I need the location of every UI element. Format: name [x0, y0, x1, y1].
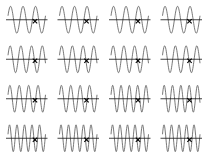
waveform-grid — [0, 0, 206, 158]
waveform-panel — [6, 46, 48, 73]
waveform-panels — [0, 0, 206, 158]
waveform-panel — [6, 6, 48, 33]
waveform-panel — [161, 125, 203, 152]
waveform-panel — [109, 46, 151, 73]
waveform-panel — [109, 6, 151, 33]
waveform-panel — [161, 85, 203, 112]
waveform-panel — [6, 85, 48, 112]
waveform-panel — [58, 125, 100, 152]
waveform-panel — [58, 85, 100, 112]
waveform-panel — [161, 6, 203, 33]
waveform-panel — [58, 46, 100, 73]
waveform-panel — [161, 46, 203, 73]
waveform-panel — [58, 6, 100, 33]
waveform-panel — [109, 85, 151, 112]
waveform-panel — [109, 125, 151, 152]
waveform-panel — [6, 125, 48, 152]
